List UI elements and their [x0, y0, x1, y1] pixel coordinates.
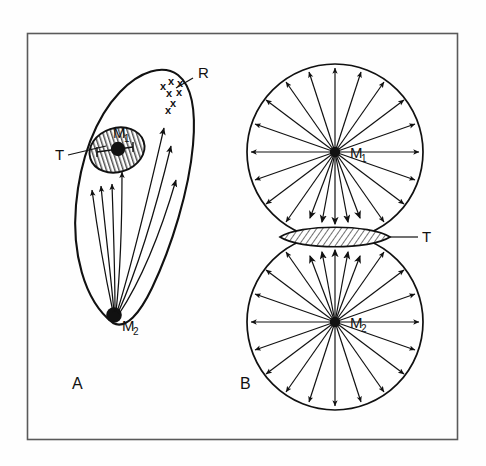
panel-b-center-m1 — [330, 147, 340, 157]
figure-svg: R T M 1 M 2 — [0, 0, 486, 466]
panel-b-label-m2-subscript: 2 — [361, 323, 367, 334]
panel-b-target-lens-T — [280, 227, 390, 247]
panel-b-center-m2 — [330, 317, 340, 327]
panel-b-letter: B — [240, 375, 251, 392]
svg-text:x: x — [165, 104, 172, 116]
panel-a: R T M 1 M 2 — [55, 64, 209, 392]
panel-a-letter: A — [72, 375, 83, 392]
svg-text:x: x — [176, 86, 183, 98]
panel-a-label-R: R — [198, 64, 209, 81]
figure-container: R T M 1 M 2 — [0, 0, 486, 466]
panel-b: T M 1 M 2 B — [240, 64, 431, 410]
panel-a-label-m1-subscript: 1 — [124, 133, 130, 144]
panel-b-label-m1-subscript: 1 — [361, 153, 367, 164]
panel-a-label-m2-subscript: 2 — [133, 326, 139, 337]
svg-text:x: x — [168, 75, 175, 87]
panel-b-label-T: T — [422, 228, 431, 245]
panel-a-label-T: T — [55, 146, 64, 163]
